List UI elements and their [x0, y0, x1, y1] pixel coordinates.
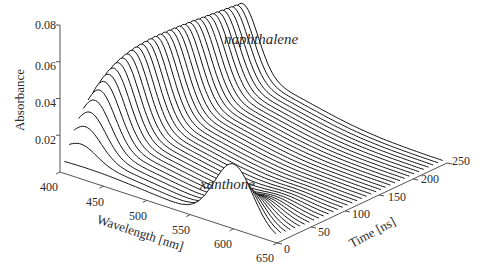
x-tick-label: 600 [214, 237, 232, 251]
annotation-xanthone: xanthone [199, 176, 255, 192]
tick-mark [56, 172, 60, 174]
y-tick-label: 200 [421, 172, 439, 186]
z-tick-label: 0.02 [35, 133, 56, 147]
x-tick-label: 500 [129, 209, 147, 223]
tick-mark [311, 227, 316, 228]
y-tick-label: 250 [452, 154, 470, 168]
annotation-naphthalene: naphthalene [224, 31, 298, 47]
tick-mark [379, 195, 384, 196]
x-tick-label: 450 [86, 195, 104, 209]
z-tick-label: 0.04 [35, 96, 56, 110]
y-tick-label: 100 [352, 207, 370, 221]
tick-mark [413, 179, 418, 180]
waterfall-chart: 0.02 0.04 0.06 0.08 400 450 500 550 600 … [0, 0, 484, 267]
y-tick-label: 0 [284, 242, 290, 256]
tick-mark [345, 211, 350, 212]
x-tick-label: 550 [172, 223, 190, 237]
tick-mark [277, 243, 282, 244]
y-tick-label: 150 [388, 190, 406, 204]
z-tick-label: 0.08 [35, 18, 56, 32]
x-tick-label: 400 [40, 180, 58, 194]
x-tick-label: 650 [256, 251, 274, 265]
z-axis-title: Absorbance [12, 69, 27, 131]
z-tick-label: 0.06 [35, 59, 56, 73]
y-tick-label: 50 [318, 225, 330, 239]
